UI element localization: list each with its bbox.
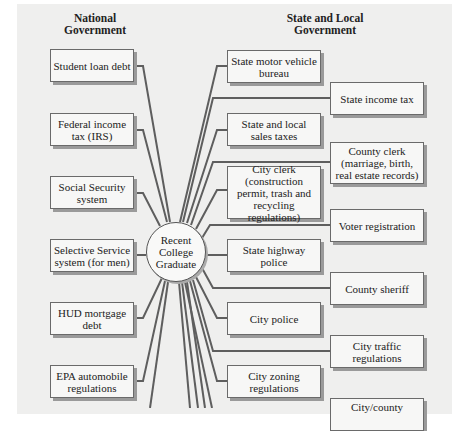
box-state-highway-police: State highway police	[227, 239, 321, 272]
box-state-motor-vehicle-bureau: State motor vehicle bureau	[227, 50, 321, 83]
box-city-zoning-regulations: City zoning regulations	[227, 365, 321, 398]
box-city-clerk: City clerk (construction permit, trash a…	[227, 166, 321, 219]
box-hud-mortgage-debt: HUD mortgage debt	[50, 302, 134, 335]
box-state-local-sales-taxes: State and local sales taxes	[227, 113, 321, 146]
box-city-police: City police	[227, 302, 321, 335]
box-federal-income-tax: Federal income tax (IRS)	[50, 113, 134, 146]
box-student-loan-debt: Student loan debt	[50, 49, 134, 82]
box-selective-service: Selective Service system (for men)	[50, 239, 134, 272]
box-voter-registration: Voter registration	[330, 209, 424, 242]
box-city-traffic-regulations: City traffic regulations	[330, 335, 424, 368]
heading-state-local-government: State and Local Government	[280, 12, 370, 36]
box-state-income-tax: State income tax	[330, 82, 424, 115]
center-recent-college-graduate: Recent College Graduate	[146, 222, 206, 282]
box-epa-automobile-regulations: EPA automobile regulations	[50, 365, 134, 398]
box-city-county: City/county	[330, 398, 424, 431]
box-social-security: Social Security system	[50, 176, 134, 209]
heading-national-government: National Government	[55, 12, 135, 36]
box-county-sheriff: County sheriff	[330, 272, 424, 305]
box-county-clerk: County clerk (marriage, birth, real esta…	[330, 142, 424, 184]
